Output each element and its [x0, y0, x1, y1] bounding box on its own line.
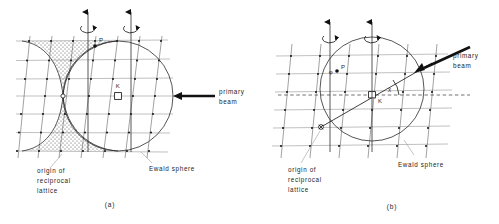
chi-angle-label-b: χ [388, 86, 392, 92]
ewald-leader-b [404, 140, 414, 155]
sphere-center-marker-a [115, 93, 122, 100]
reciprocal-lattice-columns-b [281, 44, 437, 158]
primary-beam-label-line1-a: primary [219, 88, 245, 96]
origin-label-line3-a: lattice [37, 187, 58, 194]
ewald-sphere-label-a: Ewald sphere [149, 165, 195, 173]
panel-caption-b: (b) [387, 203, 397, 211]
reciprocal-lattice-columns-a [18, 36, 162, 158]
origin-marker-b [319, 125, 324, 130]
point-p-label-a: P [99, 37, 103, 43]
primary-beam-arrowhead-a [173, 92, 182, 100]
phi-angle-label-b: φ [329, 69, 333, 75]
ewald-diagram-svg: K P primary beam Ewald sphere origin of … [0, 0, 499, 224]
panel-b: primary beam K χ φ P Ewald sphere [272, 22, 479, 211]
primary-beam-label-line2-b: beam [453, 62, 471, 69]
lattice-nodes-b [280, 55, 437, 147]
figure-container: K P primary beam Ewald sphere origin of … [0, 0, 499, 224]
rotation-axis-1-b [323, 22, 337, 48]
primary-beam-arrowhead-b [414, 63, 425, 73]
ewald-leader-a [141, 152, 152, 163]
origin-label-line2-b: reciprocal [288, 176, 322, 184]
primary-beam-label-line2-a: beam [219, 98, 237, 105]
ewald-sphere-label-b: Ewald sphere [398, 161, 444, 169]
reciprocal-lattice-rows-a [16, 40, 176, 152]
panel-caption-a: (a) [105, 201, 115, 209]
point-k-label-a: K [116, 83, 120, 89]
origin-label-line3-b: lattice [288, 186, 309, 193]
primary-beam-label-line1-b: primary [453, 52, 479, 60]
origin-leader-a [50, 154, 62, 168]
origin-label-line1-a: origin of [37, 167, 65, 175]
panel-a: K P primary beam Ewald sphere origin of … [16, 12, 245, 209]
origin-label-line2-a: reciprocal [37, 177, 71, 185]
point-k-label-b: K [378, 98, 382, 104]
point-p-marker-a [93, 44, 97, 48]
point-p-marker-b [335, 69, 339, 73]
rotation-axis-2-a [124, 12, 138, 40]
rotation-axis-1-a [81, 12, 95, 40]
origin-label-line1-b: origin of [288, 166, 316, 174]
origin-marker-a [61, 94, 65, 98]
rotation-axis-2-b [365, 22, 379, 48]
origin-leader-b [301, 131, 320, 163]
point-p-label-b: P [341, 64, 345, 70]
